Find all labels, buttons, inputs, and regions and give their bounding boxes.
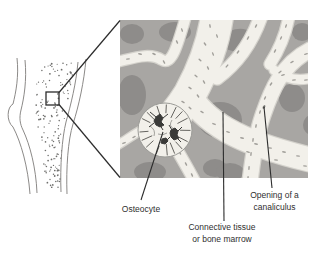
osteocyte-label: Osteocyte xyxy=(99,204,183,216)
pointer-line-osteocyte xyxy=(141,132,163,200)
cross-section-circle xyxy=(138,103,192,157)
trabeculae xyxy=(116,16,312,184)
canaliculus-label: Opening of a canaliculus xyxy=(233,190,316,213)
marrow-shadow-blobs xyxy=(118,22,316,182)
lamellae-lines xyxy=(150,120,174,136)
connector-line-top xyxy=(59,21,120,93)
figure-canvas: Osteocyte Connective tissue or bone marr… xyxy=(0,0,316,254)
canaliculus-opening xyxy=(262,105,266,110)
magnified-panel xyxy=(116,16,316,184)
bone-overview-inset xyxy=(8,58,86,194)
osteocyte-cross-section xyxy=(138,103,266,157)
zoom-region-square xyxy=(46,92,59,105)
pointer-line-connective-tissue xyxy=(223,112,224,221)
osteocyte-cells xyxy=(149,112,182,144)
connector-line-bottom xyxy=(59,105,120,178)
lacunae-speckles xyxy=(122,24,308,180)
spongy-bone-stipple xyxy=(35,63,73,188)
pointer-line-canaliculus xyxy=(264,107,272,188)
marrow-background xyxy=(120,20,308,178)
diagram-art xyxy=(0,0,316,254)
connective-tissue-label: Connective tissue or bone marrow xyxy=(172,222,272,245)
canaliculi-spokes xyxy=(140,105,191,156)
